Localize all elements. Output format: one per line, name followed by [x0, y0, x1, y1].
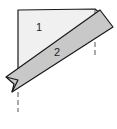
panel-1-label: 1	[36, 21, 42, 33]
strip-2-label: 2	[54, 46, 60, 58]
folding-diagram: 1 2	[0, 0, 117, 129]
